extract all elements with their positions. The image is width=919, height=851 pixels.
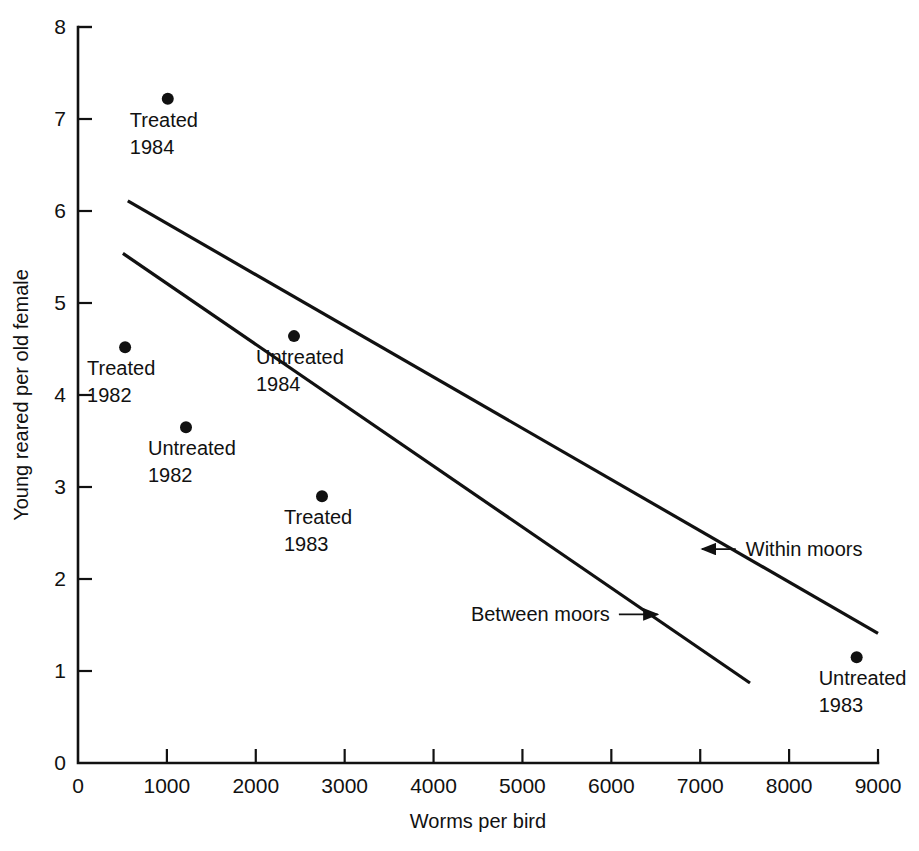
x-tick-label: 2000 (232, 774, 279, 797)
x-tick-label: 8000 (766, 774, 813, 797)
data-point-label-year: 1982 (148, 464, 193, 486)
data-point-label-name: Treated (87, 357, 155, 379)
trend-line-between-moors (123, 253, 750, 683)
x-tick-label: 0 (72, 774, 84, 797)
y-tick-label: 4 (54, 383, 66, 406)
x-tick-label: 6000 (588, 774, 635, 797)
data-point (316, 490, 328, 502)
y-tick-label: 7 (54, 107, 66, 130)
y-tick-label: 2 (54, 567, 66, 590)
data-point (288, 330, 300, 342)
axis-lines (78, 27, 878, 763)
data-point-label-year: 1984 (256, 373, 301, 395)
data-point-label-name: Untreated (819, 667, 907, 689)
data-point-label-year: 1982 (87, 384, 132, 406)
data-point-label-year: 1983 (819, 694, 864, 716)
data-point-label-year: 1983 (284, 533, 329, 555)
scatter-chart: 0123456780100020003000400050006000700080… (0, 0, 919, 851)
y-tick-label: 0 (54, 751, 66, 774)
y-axis-title: Young reared per old female (10, 269, 32, 521)
data-point (851, 651, 863, 663)
x-tick-label: 9000 (855, 774, 902, 797)
trend-line-within-moors (128, 201, 878, 633)
y-tick-label: 3 (54, 475, 66, 498)
annotation-within-moors: Within moors (746, 538, 863, 560)
x-axis-title: Worms per bird (410, 810, 546, 832)
y-tick-label: 1 (54, 659, 66, 682)
y-tick-label: 8 (54, 15, 66, 38)
data-point-label-name: Untreated (256, 346, 344, 368)
x-tick-label: 3000 (321, 774, 368, 797)
annotation-between-moors: Between moors (471, 603, 610, 625)
data-point-label-name: Treated (130, 109, 198, 131)
y-tick-label: 6 (54, 199, 66, 222)
data-point (180, 421, 192, 433)
data-point (119, 341, 131, 353)
y-tick-label: 5 (54, 291, 66, 314)
data-point-label-name: Treated (284, 506, 352, 528)
x-tick-label: 4000 (410, 774, 457, 797)
data-point (162, 93, 174, 105)
figure-canvas: 0123456780100020003000400050006000700080… (0, 0, 919, 851)
data-point-label-year: 1984 (130, 136, 175, 158)
x-tick-label: 1000 (144, 774, 191, 797)
x-tick-label: 7000 (677, 774, 724, 797)
data-point-label-name: Untreated (148, 437, 236, 459)
x-tick-label: 5000 (499, 774, 546, 797)
